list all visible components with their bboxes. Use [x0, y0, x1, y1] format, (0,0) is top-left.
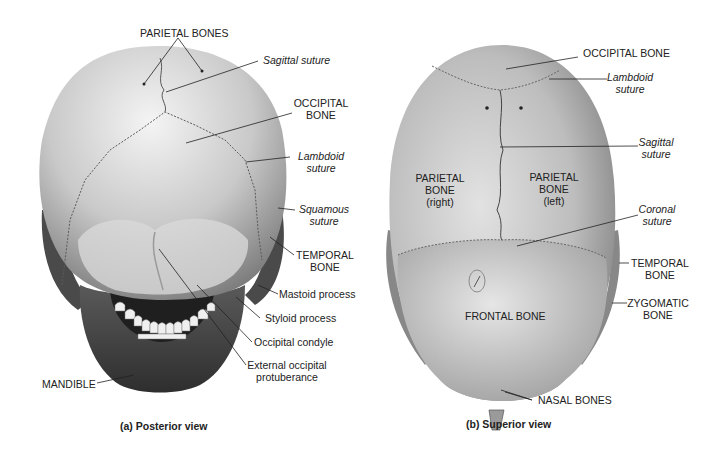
label-sagittal-suture-posterior: Sagittal suture — [263, 54, 330, 66]
label-parietal-bone-left: PARIETAL BONE (left) — [528, 171, 580, 207]
label-temporal-bone-posterior: TEMPORAL BONE — [296, 249, 354, 273]
label-styloid-process: Styloid process — [265, 312, 336, 324]
superior-skull — [386, 45, 620, 430]
label-mastoid-process: Mastoid process — [279, 288, 355, 300]
caption-superior-view: (b) Superior view — [466, 418, 551, 430]
label-squamous-suture: Squamous suture — [298, 203, 350, 227]
label-occipital-condyle: Occipital condyle — [254, 336, 333, 348]
label-lambdoid-suture-superior: Lambdoid suture — [606, 71, 654, 95]
label-lambdoid-suture-posterior: Lambdoid suture — [296, 150, 346, 174]
caption-posterior-view: (a) Posterior view — [120, 420, 208, 432]
label-occipital-bone-posterior: OCCIPITAL BONE — [293, 97, 349, 121]
label-mandible: MANDIBLE — [42, 378, 96, 390]
label-sagittal-suture-superior: Sagittal suture — [636, 136, 676, 160]
label-parietal-bone-right: PARIETAL BONE (right) — [414, 172, 466, 208]
skull-illustrations — [0, 0, 714, 454]
label-occipital-bone-superior: OCCIPITAL BONE — [583, 47, 670, 59]
label-zygomatic-bone: ZYGOMATIC BONE — [626, 297, 690, 321]
label-temporal-bone-superior: TEMPORAL BONE — [630, 257, 690, 281]
label-frontal-bone: FRONTAL BONE — [465, 310, 546, 322]
posterior-skull — [39, 46, 286, 393]
label-coronal-suture: Coronal suture — [636, 203, 678, 227]
label-external-occipital-protuberance: External occipital protuberance — [246, 359, 328, 383]
label-nasal-bones: NASAL BONES — [538, 394, 612, 406]
label-parietal-bones: PARIETAL BONES — [140, 27, 229, 39]
